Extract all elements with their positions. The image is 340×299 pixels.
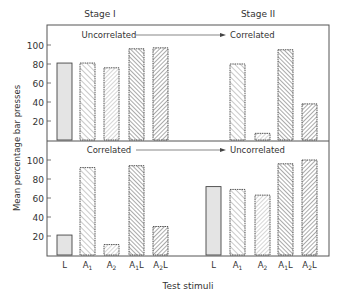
- y-tick-label: 80: [33, 60, 45, 70]
- y-tick-label: 20: [33, 117, 45, 127]
- bar-a1l: [278, 50, 293, 140]
- condition-label-stage-2: Correlated: [230, 30, 275, 40]
- x-category-label: A1L: [278, 260, 293, 271]
- x-axis-categories: LA1A2A1LA2LLA1A2A1LA2L: [62, 260, 317, 271]
- y-axis-label: Mean percentage bar presses: [12, 84, 22, 211]
- bar-l: [206, 187, 221, 255]
- x-category-label: A2: [107, 260, 117, 271]
- bar-a1l: [278, 164, 293, 255]
- condition-label-stage-1: Correlated: [87, 145, 132, 155]
- bar-a1: [80, 168, 95, 255]
- stage-1-label: Stage I: [84, 9, 116, 19]
- arrow-icon: [220, 33, 226, 37]
- bar-a1: [230, 189, 245, 255]
- y-tick-label: 40: [33, 213, 45, 223]
- bar-a2: [255, 195, 270, 255]
- arrow-icon: [220, 148, 226, 152]
- bar-a2l: [153, 48, 168, 140]
- bar-a2l: [302, 104, 317, 140]
- x-category-label: L: [211, 260, 216, 270]
- y-tick-label: 20: [33, 232, 45, 242]
- condition-label-stage-2: Uncorrelated: [230, 145, 285, 155]
- x-category-label: A1L: [129, 260, 144, 271]
- x-axis-label: Test stimuli: [162, 281, 214, 291]
- bar-a1l: [129, 166, 144, 255]
- bar-chart: Stage IStage II 2040608010020406080100 U…: [0, 0, 340, 299]
- y-tick-label: 80: [33, 175, 45, 185]
- bar-a2l: [302, 160, 317, 255]
- bar-a1l: [129, 49, 144, 140]
- x-category-label: A2: [258, 260, 268, 271]
- y-tick-label: 40: [33, 98, 45, 108]
- x-category-label: A2L: [153, 260, 168, 271]
- bar-a2: [104, 68, 119, 140]
- y-tick-label: 100: [27, 156, 44, 166]
- y-tick-label: 60: [33, 79, 45, 89]
- x-category-label: L: [62, 260, 67, 270]
- y-tick-label: 100: [27, 41, 44, 51]
- stage-labels: Stage IStage II: [84, 9, 275, 19]
- bar-a2: [104, 245, 119, 255]
- condition-label-stage-1: Uncorrelated: [82, 30, 137, 40]
- stage-2-label: Stage II: [241, 9, 275, 19]
- bar-l: [57, 63, 72, 140]
- bar-l: [57, 235, 72, 255]
- bar-a1: [80, 63, 95, 140]
- x-category-label: A1: [233, 260, 243, 271]
- x-category-label: A2L: [302, 260, 317, 271]
- bar-a2: [255, 133, 270, 140]
- bar-a1: [230, 64, 245, 140]
- y-tick-label: 60: [33, 194, 45, 204]
- bar-a2l: [153, 227, 168, 256]
- x-category-label: A1: [83, 260, 93, 271]
